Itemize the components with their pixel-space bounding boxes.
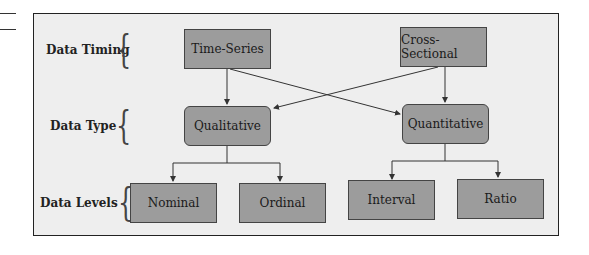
row-label-data-timing: Data Timing bbox=[46, 43, 108, 57]
brace-icon: { bbox=[116, 104, 131, 144]
node-ratio: Ratio bbox=[457, 179, 544, 219]
node-interval: Interval bbox=[348, 180, 435, 220]
node-time-series: Time-Series bbox=[184, 29, 271, 69]
row-label-data-levels: Data Levels bbox=[40, 196, 115, 210]
node-cross-sectional: Cross-Sectional bbox=[400, 27, 487, 67]
row-label-data-type: Data Type bbox=[50, 119, 110, 133]
node-ordinal: Ordinal bbox=[239, 183, 326, 223]
brace-icon: { bbox=[116, 28, 131, 68]
node-qualitative: Qualitative bbox=[184, 106, 271, 146]
node-nominal: Nominal bbox=[130, 183, 217, 223]
node-quantitative: Quantitative bbox=[402, 104, 489, 144]
